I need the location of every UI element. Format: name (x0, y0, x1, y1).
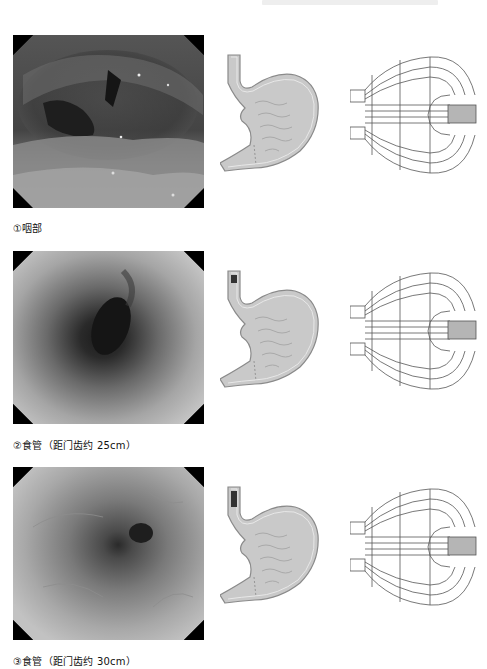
stomach-diagram-pharynx (220, 53, 320, 173)
stomach-diagram-esophagus-30cm (220, 485, 320, 605)
endoscopic-image-pharynx (13, 35, 204, 208)
figure-row-pharynx: ①咽部 (0, 35, 487, 251)
figure-row-esophagus-30cm: ③食管（距门齿约 30cm） (0, 467, 487, 669)
figure-caption: ③食管（距门齿约 30cm） (13, 653, 136, 668)
scope-position-marker (231, 491, 237, 507)
figure-caption: ①咽部 (13, 220, 43, 235)
scope-schematic-esophagus-25cm (350, 271, 480, 391)
page-header (262, 0, 438, 5)
endoscopic-image-esophagus-25cm (13, 251, 204, 424)
scope-position-marker (231, 275, 237, 283)
figure-caption: ②食管（距门齿约 25cm） (13, 437, 136, 452)
stomach-diagram-esophagus-25cm (220, 269, 320, 389)
scope-schematic-esophagus-30cm (350, 487, 480, 607)
scope-schematic-pharynx (350, 55, 480, 175)
figure-row-esophagus-25cm: ②食管（距门齿约 25cm） (0, 251, 487, 467)
endoscopic-image-esophagus-30cm (13, 467, 204, 640)
